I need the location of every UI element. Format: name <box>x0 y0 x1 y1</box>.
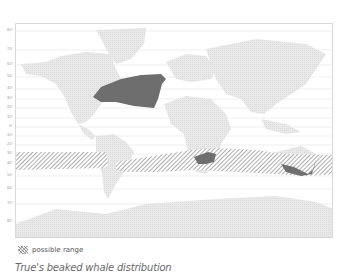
lat-label: 20° <box>3 105 13 109</box>
lat-label: 80° <box>3 28 13 32</box>
lat-label: 60° <box>3 62 13 66</box>
land <box>16 28 333 238</box>
lat-label: 30° <box>3 96 13 100</box>
lat-label: 30° <box>3 151 13 155</box>
lat-label: 10° <box>3 133 13 137</box>
lat-label: 10° <box>3 115 13 119</box>
hatch-swatch-icon <box>18 246 28 254</box>
lat-label: 80° <box>3 219 13 223</box>
lat-label: 50° <box>3 74 13 78</box>
legend-possible-range-label: possible range <box>32 246 83 254</box>
lat-label: 50° <box>3 173 13 177</box>
map-caption: True's beaked whale distribution <box>15 262 172 273</box>
possible-range-band <box>16 152 108 170</box>
map-frame <box>15 23 333 238</box>
lat-label: 70° <box>3 47 13 51</box>
lat-label: 60° <box>3 186 13 190</box>
lat-label: 0° <box>3 124 13 128</box>
lat-label: 70° <box>3 201 13 205</box>
map-legend: possible range <box>18 246 83 254</box>
lat-label: 40° <box>3 161 13 165</box>
world-map <box>16 24 333 238</box>
lat-label: 40° <box>3 86 13 90</box>
lat-label: 20° <box>3 142 13 146</box>
